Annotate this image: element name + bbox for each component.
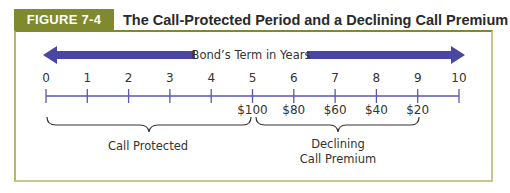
tick-label: 10 [451,71,466,85]
left-arrow-icon [43,46,195,64]
call-premium-label: $100 [237,103,268,117]
call-premium-label: $20 [406,103,429,117]
tick-label: 8 [373,71,381,85]
tick-label: 2 [125,71,133,85]
brace-label-call-protected: Call Protected [108,139,188,153]
bidirectional-arrow: Bond’s Term in Years [43,46,465,64]
tick-label: 6 [290,71,298,85]
brace-label-declining-line2: Call Premium [300,152,376,166]
brace-declining-premium: Declining Call Premium [256,117,419,166]
tick-label: 0 [42,71,50,85]
tick-label: 5 [249,71,257,85]
timeline-axis: 012345678910 $100$80$60$40$20 [42,71,466,117]
diagram-canvas: Bond’s Term in Years 012345678910 $100$8… [0,0,510,193]
tick-label: 1 [83,71,91,85]
tick-label: 3 [166,71,174,85]
tick-label: 4 [207,71,215,85]
call-premium-label: $40 [365,103,388,117]
arrow-label: Bond’s Term in Years [192,48,311,62]
tick-label: 9 [414,71,422,85]
brace-label-declining-line1: Declining [311,137,365,151]
call-premium-label: $80 [282,103,305,117]
call-premium-label: $60 [324,103,347,117]
tick-label: 7 [331,71,339,85]
brace-call-protected: Call Protected [47,117,251,153]
right-arrow-icon [307,46,465,64]
